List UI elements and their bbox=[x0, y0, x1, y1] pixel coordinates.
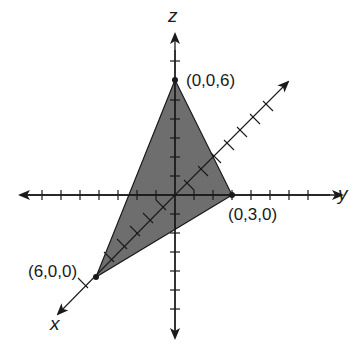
point-y-vertex bbox=[229, 192, 235, 198]
point-label-x: (6,0,0) bbox=[28, 262, 77, 281]
z-axis-label: z bbox=[167, 5, 178, 26]
triangle-plane bbox=[96, 80, 232, 277]
point-x-vertex bbox=[93, 274, 99, 280]
x-axis-label: x bbox=[49, 313, 61, 334]
coordinate-diagram: z y x (0,0,6) (0,3,0) (6,0,0) bbox=[0, 0, 357, 344]
point-label-z: (0,0,6) bbox=[186, 71, 235, 90]
point-label-y: (0,3,0) bbox=[228, 205, 277, 224]
point-z-vertex bbox=[172, 77, 178, 83]
y-axis-label: y bbox=[336, 183, 349, 204]
